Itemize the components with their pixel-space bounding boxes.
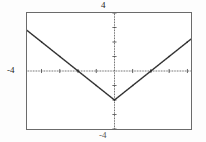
calculator-screen-frame bbox=[26, 12, 192, 130]
curve-layer bbox=[27, 30, 191, 101]
y-axis-min-label: -4 bbox=[99, 131, 107, 140]
y-axis-max-label: 4 bbox=[101, 1, 106, 10]
plot-surface bbox=[27, 13, 191, 129]
axis-layer bbox=[27, 13, 191, 129]
calculator-screenshot: ) 4 -4 -4 bbox=[0, 0, 206, 142]
plot-graphic bbox=[27, 13, 191, 129]
x-axis-min-label: -4 bbox=[7, 66, 15, 75]
